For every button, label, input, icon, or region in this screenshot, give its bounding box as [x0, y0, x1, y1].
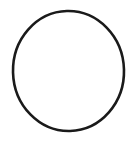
- image-canvas: [0, 0, 140, 146]
- figure-svg: [0, 0, 140, 146]
- canvas-background: [0, 0, 140, 146]
